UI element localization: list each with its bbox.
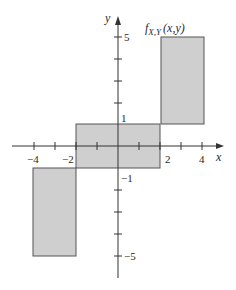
x-tick-label: 4 bbox=[199, 153, 205, 165]
x-axis-label: x bbox=[215, 150, 222, 164]
region-lower-left bbox=[33, 168, 76, 256]
x-tick-label: 2 bbox=[165, 153, 171, 165]
x-tick-label: −2 bbox=[62, 153, 74, 165]
y-tick-label: −1 bbox=[121, 172, 133, 184]
y-tick-label: −5 bbox=[124, 250, 136, 262]
y-axis-arrow-icon bbox=[115, 16, 121, 25]
y-tick-label: 1 bbox=[121, 112, 127, 124]
x-axis-arrow-icon bbox=[216, 143, 224, 149]
y-tick-label: 5 bbox=[124, 31, 130, 43]
joint-pdf-diagram: x y −4 −2 2 4 5 1 −1 −5 fX,Y(x,y) bbox=[0, 0, 236, 290]
function-label: fX,Y(x,y) bbox=[145, 21, 185, 37]
region-upper-right bbox=[161, 37, 204, 124]
x-tick-label: −4 bbox=[27, 153, 39, 165]
y-axis-label: y bbox=[104, 11, 111, 25]
